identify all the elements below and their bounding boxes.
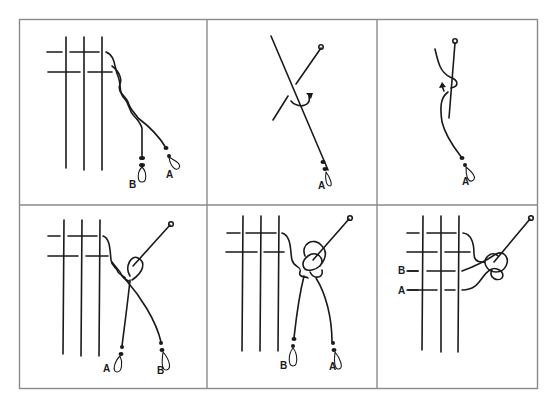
label-b: B <box>157 365 164 376</box>
weave-grid <box>407 216 482 352</box>
wrap-arrow <box>291 93 313 106</box>
twisted-strands-upper <box>103 236 126 280</box>
pin-lower <box>273 96 288 120</box>
pin-head <box>529 216 534 221</box>
label-a: A <box>329 361 336 372</box>
strand-a-lower <box>441 92 462 158</box>
pin-head <box>453 39 457 43</box>
panel-6: B A <box>398 216 533 352</box>
swivel-a: A <box>329 341 341 372</box>
weave-grid <box>226 216 284 351</box>
pin-upper <box>296 48 321 84</box>
strand-labels: B A <box>398 265 418 296</box>
panel-3: A <box>435 39 474 187</box>
knot-tying-diagram: B A A <box>0 0 551 403</box>
swivel-a: A <box>460 156 475 187</box>
strand-a <box>122 280 130 346</box>
label-a: A <box>166 169 173 180</box>
panel-1: B A <box>47 37 180 190</box>
pin <box>494 219 530 262</box>
weave-grid <box>47 37 112 170</box>
label-b: B <box>280 360 287 371</box>
twisted-strands-lower <box>112 262 130 282</box>
label-a: A <box>398 285 405 296</box>
pin-head <box>348 216 353 221</box>
pin <box>133 225 170 266</box>
panel-2: A <box>271 36 331 191</box>
label-a: A <box>462 176 469 187</box>
swivel-b: B <box>129 156 146 190</box>
loop-around-pin <box>128 222 173 280</box>
pin-head <box>169 222 174 227</box>
label-b: B <box>398 265 405 276</box>
knot-around-pin <box>303 216 352 277</box>
label-a: A <box>318 180 325 191</box>
swivel-a: A <box>164 146 180 180</box>
strand-a <box>271 36 328 170</box>
swivel-a: A <box>318 160 331 191</box>
up-arrow <box>439 82 446 91</box>
finished-knot <box>462 216 533 290</box>
pin-head <box>319 45 323 49</box>
strand-b <box>294 276 304 338</box>
panel-4: A B <box>48 220 173 376</box>
strand-a <box>316 278 332 342</box>
label-a: A <box>103 363 110 374</box>
twisted-strands <box>106 52 166 158</box>
swivel-b: B <box>157 341 170 376</box>
swivel-b: B <box>280 337 297 371</box>
strand-top-return <box>463 233 482 262</box>
swivel-a: A <box>103 345 124 374</box>
pin <box>313 219 349 260</box>
strand-b <box>126 280 161 342</box>
weave-grid <box>48 220 108 356</box>
label-b: B <box>129 179 136 190</box>
pin <box>449 43 455 118</box>
panel-5: B A <box>226 216 352 372</box>
